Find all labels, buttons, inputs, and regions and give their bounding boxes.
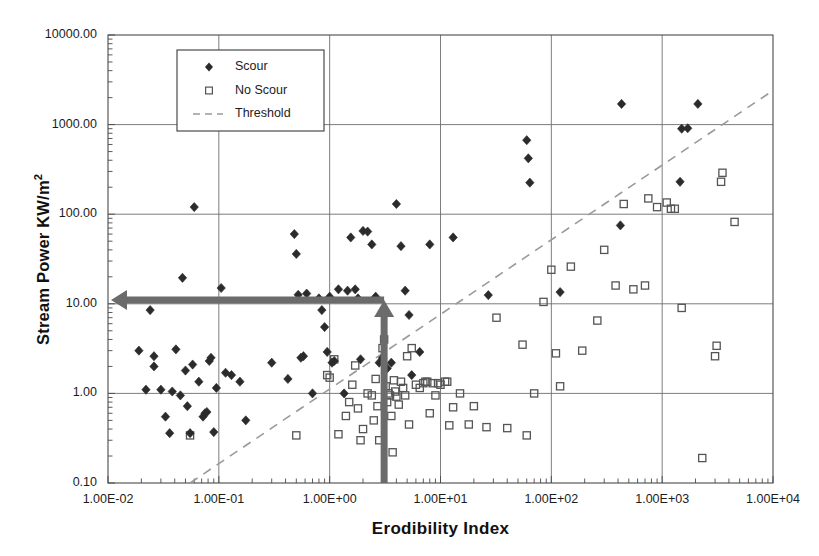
x-axis-tick-label: 1.00E+03 — [617, 492, 707, 506]
legend-label-scour: Scour — [235, 59, 268, 73]
x-axis-tick-label: 1.00E-01 — [174, 492, 264, 506]
chart-figure: 0.101.0010.00100.001000.0010000.001.00E-… — [0, 0, 819, 556]
x-axis-tick-label: 1.00E+04 — [728, 492, 818, 506]
x-axis-tick-label: 1.00E-02 — [63, 492, 153, 506]
y-axis-tick-label: 1.00 — [0, 385, 97, 399]
y-axis-tick-label: 0.10 — [0, 475, 97, 489]
legend-label-no-scour: No Scour — [235, 83, 287, 97]
y-axis-title-base: Stream Power KW/m — [34, 180, 52, 345]
y-axis-tick-label: 1000.00 — [0, 117, 97, 131]
y-axis-title: Stream Power KW/m2 — [32, 174, 53, 345]
figure-background — [0, 0, 819, 556]
x-axis-tick-label: 1.00E+01 — [396, 492, 486, 506]
y-axis-title-exponent: 2 — [32, 174, 44, 180]
scatter-plot-svg — [0, 0, 819, 556]
legend-label-threshold: Threshold — [235, 106, 291, 120]
y-axis-tick-label: 10000.00 — [0, 27, 97, 41]
x-axis-tick-label: 1.00E+02 — [506, 492, 596, 506]
x-axis-title: Erodibility Index — [108, 519, 773, 539]
x-axis-tick-label: 1.00E+00 — [285, 492, 375, 506]
